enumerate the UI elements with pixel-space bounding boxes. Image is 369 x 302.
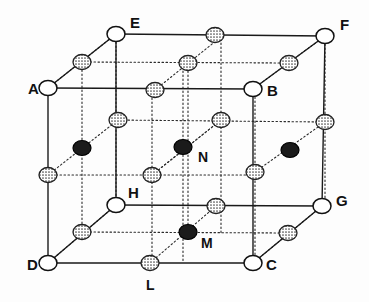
edge-BF-midpoint-atom	[280, 56, 298, 71]
corner-label-H: H	[128, 184, 139, 201]
corner-label-D: D	[27, 256, 38, 273]
lattice-diagram: NMLABCDEFGH	[0, 0, 369, 302]
interior-right-atom	[281, 143, 299, 158]
edge-DH-midpoint-atom	[73, 225, 91, 240]
atom-label-M: M	[201, 235, 213, 251]
face-ABFE-centre-atom	[109, 113, 127, 128]
corner-atom-G	[313, 199, 331, 214]
atom-label-L: L	[146, 277, 155, 293]
corner-atom-F	[316, 29, 334, 44]
edge-HG-midpoint-atom	[207, 199, 225, 214]
lattice-figure: NMLABCDEFGH	[0, 0, 369, 302]
corner-atom-C	[244, 256, 262, 271]
edge-CG-midpoint-atom	[279, 226, 297, 241]
edge-AB-midpoint-atom	[146, 83, 164, 98]
corner-label-E: E	[130, 14, 140, 31]
front-face-centre-atom	[143, 168, 161, 183]
corner-atom-B	[244, 82, 262, 97]
corner-atom-A	[39, 81, 57, 96]
top-face-centre-atom	[179, 56, 197, 71]
corner-label-A: A	[28, 80, 39, 97]
dark-atoms-group	[73, 140, 299, 240]
face-BCGF-centre-atom	[246, 165, 264, 180]
corner-label-C: C	[266, 256, 277, 273]
corner-label-F: F	[340, 16, 349, 33]
edge-EF-midpoint-atom	[206, 28, 224, 43]
corner-label-B: B	[267, 82, 278, 99]
atom-L	[141, 256, 159, 271]
corner-atom-H	[107, 198, 125, 213]
corner-label-G: G	[336, 192, 348, 209]
atom-M	[179, 225, 197, 240]
corner-atom-E	[107, 27, 125, 42]
edge-AE-midpoint-atom	[73, 55, 91, 70]
interior-left-atom	[73, 141, 91, 156]
edge-FG-midpoint-atom	[316, 115, 334, 130]
corner-atom-D	[39, 256, 57, 271]
atom-label-N: N	[198, 149, 208, 165]
edge-AD-midpoint-atom	[39, 168, 57, 183]
atom-N	[174, 140, 192, 155]
back-face-centre-atom	[212, 113, 230, 128]
